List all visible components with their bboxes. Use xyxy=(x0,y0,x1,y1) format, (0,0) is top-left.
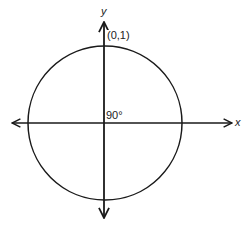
point-0-1-label: (0,1) xyxy=(107,30,130,41)
unit-circle-diagram: y x (0,1) 90° xyxy=(0,0,250,228)
x-axis-label: x xyxy=(235,117,241,128)
y-axis-label: y xyxy=(101,6,107,17)
angle-90-label: 90° xyxy=(106,110,123,121)
